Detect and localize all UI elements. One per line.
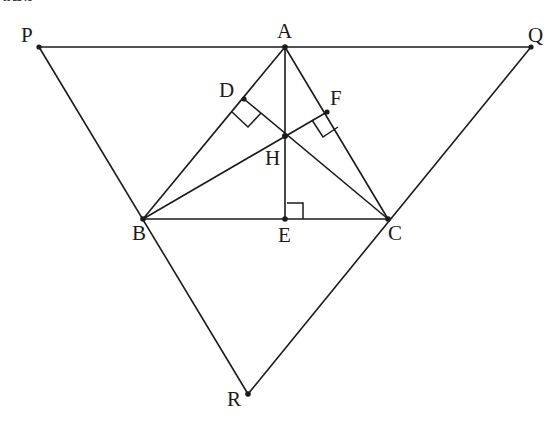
label-h: H (265, 148, 280, 169)
label-b: B (132, 223, 146, 244)
right-angle-mark-d (232, 112, 261, 127)
vertex-dot-h (282, 133, 288, 139)
vertex-dot-d (241, 96, 246, 101)
vertex-dot-r (245, 391, 251, 397)
label-r: R (227, 389, 241, 410)
vertex-dot-p (36, 44, 41, 49)
label-q: Q (528, 25, 543, 46)
label-c: C (388, 223, 402, 244)
geometry-figure (0, 0, 555, 437)
right-angle-mark-e (287, 203, 303, 219)
segment-ac (285, 47, 388, 219)
label-f: F (330, 88, 342, 109)
diagram-canvas: ena P Q R A B C D E (0, 0, 555, 437)
label-d: D (219, 80, 234, 101)
label-e: E (278, 225, 291, 246)
label-p: P (21, 25, 33, 46)
vertex-dot-f (324, 109, 329, 114)
label-a: A (277, 21, 292, 42)
vertex-dot-a (282, 44, 288, 50)
vertex-dot-e (282, 216, 288, 222)
segment-ab (143, 47, 285, 219)
